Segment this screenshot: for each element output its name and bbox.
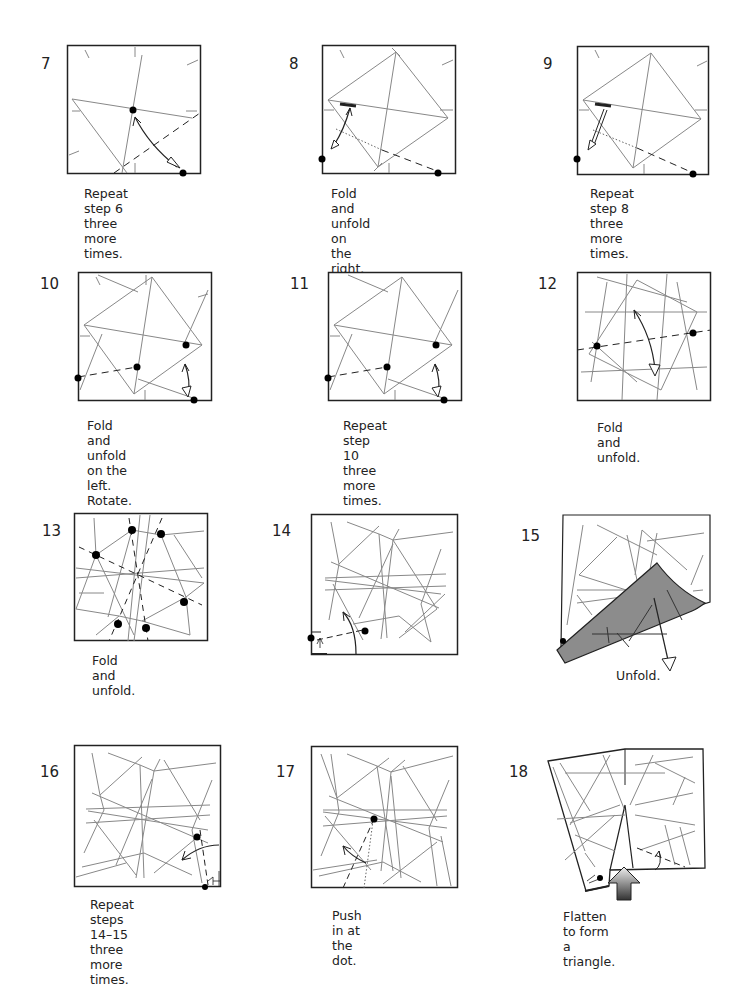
step-caption: Push in at the dot.	[332, 908, 362, 968]
step-number: 18	[509, 763, 528, 781]
fold-diagram-14	[311, 514, 459, 656]
step-caption: Fold and unfold.	[597, 420, 640, 465]
fold-diagram-13	[74, 513, 210, 643]
step-number: 10	[40, 275, 59, 293]
step-number: 15	[521, 527, 540, 545]
step-caption: Fold and unfold on the left. Rotate.	[87, 418, 132, 508]
step-number: 17	[276, 763, 295, 781]
step-number: 14	[272, 522, 291, 540]
step-caption: Repeat step 6 three more times.	[84, 186, 128, 261]
step-number: 11	[290, 275, 309, 293]
step-number: 7	[41, 55, 51, 73]
fold-diagram-11	[328, 272, 462, 402]
fold-diagram-12	[577, 272, 711, 402]
fold-diagram-16	[74, 745, 224, 891]
push-arrow-icon	[608, 867, 640, 900]
fold-diagram-10	[78, 272, 212, 402]
step-caption: Repeat step 8 three more times.	[590, 186, 634, 261]
fold-diagram-15	[557, 515, 713, 675]
dot-marker	[180, 170, 187, 177]
step-number: 16	[40, 763, 59, 781]
step-caption: Repeat steps 14–15 three more times.	[90, 897, 134, 987]
fold-diagram-9	[577, 46, 711, 176]
step-number: 13	[42, 522, 61, 540]
step-number: 9	[543, 55, 553, 73]
fold-diagram-18	[545, 745, 715, 905]
fold-diagram-7	[67, 45, 201, 175]
fold-diagram-8	[322, 45, 456, 175]
step-number: 8	[289, 55, 299, 73]
dot-marker	[130, 107, 137, 114]
step-caption: Fold and unfold.	[92, 653, 135, 698]
fold-diagram-17	[311, 746, 461, 892]
step-caption: Repeat step 10 three more times.	[343, 418, 387, 508]
step-caption: Unfold.	[616, 668, 661, 683]
step-number: 12	[538, 275, 557, 293]
step-caption: Flatten to form a triangle.	[563, 909, 615, 969]
